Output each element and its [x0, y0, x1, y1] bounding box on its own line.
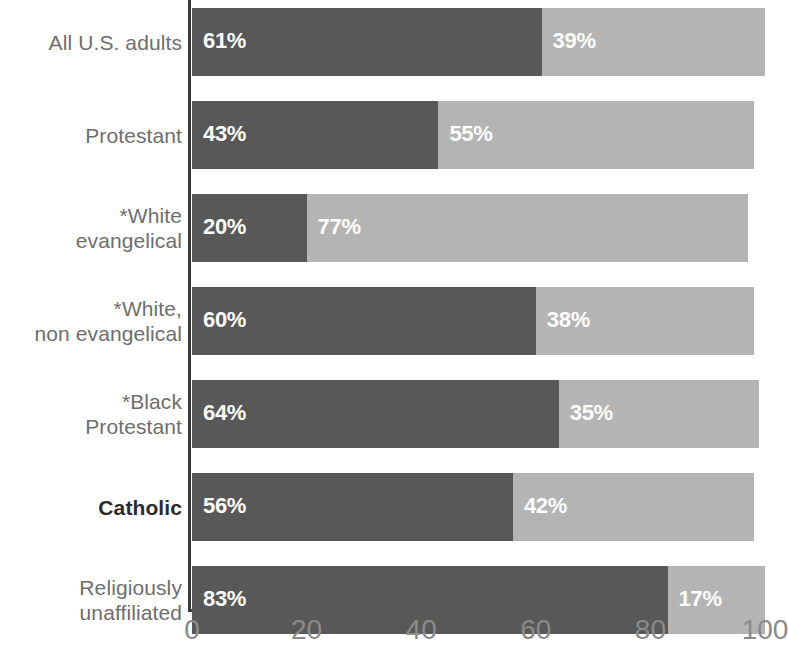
- bar-segment-second: 55%: [438, 101, 753, 169]
- bar-segment-second: 35%: [559, 380, 760, 448]
- x-tick-5: 100: [742, 614, 788, 646]
- x-tick-3: 60: [520, 614, 551, 646]
- bar-segment-first: 61%: [192, 8, 542, 76]
- x-tick-1: 20: [291, 614, 322, 646]
- bar-value-label-second: 35%: [570, 400, 613, 426]
- bar-value-label-first: 56%: [203, 493, 246, 519]
- category-label-2: *White evangelical: [0, 203, 182, 253]
- bar-value-label-second: 17%: [679, 586, 722, 612]
- x-tick-0: 0: [184, 614, 200, 646]
- bar-value-label-first: 20%: [203, 214, 246, 240]
- category-axis-labels: All U.S. adults Protestant *White evange…: [0, 0, 182, 612]
- y-axis-line: [188, 0, 191, 612]
- category-label-6: Religiously unaffiliated: [0, 575, 182, 625]
- bar-value-label-first: 64%: [203, 400, 246, 426]
- bar-segment-second: 38%: [536, 287, 754, 355]
- bar-segment-first: 43%: [192, 101, 438, 169]
- bar-segment-first: 56%: [192, 473, 513, 541]
- bar-segment-first: 20%: [192, 194, 307, 262]
- bar-value-label-first: 43%: [203, 121, 246, 147]
- x-tick-2: 40: [406, 614, 437, 646]
- category-label-5: Catholic: [0, 495, 182, 520]
- bar-value-label-second: 42%: [524, 493, 567, 519]
- bar-value-label-first: 83%: [203, 586, 246, 612]
- x-tick-4: 80: [635, 614, 666, 646]
- category-label-4: *Black Protestant: [0, 389, 182, 439]
- bar-value-label-first: 61%: [203, 28, 246, 54]
- bar-value-label-second: 39%: [553, 28, 596, 54]
- bar-segment-first: 60%: [192, 287, 536, 355]
- plot-area: 61% 39% 43% 55% 20% 77% 60%: [192, 0, 765, 612]
- x-axis-tick-labels: 0 20 40 60 80 100: [192, 614, 765, 658]
- bar-value-label-first: 60%: [203, 307, 246, 333]
- category-label-1: Protestant: [0, 123, 182, 148]
- bar-segment-second: 39%: [542, 8, 765, 76]
- bar-value-label-second: 77%: [318, 214, 361, 240]
- bar-value-label-second: 38%: [547, 307, 590, 333]
- category-label-3: *White, non evangelical: [0, 296, 182, 346]
- category-label-0: All U.S. adults: [0, 30, 182, 55]
- bar-value-label-second: 55%: [449, 121, 492, 147]
- bar-segment-second: 77%: [307, 194, 748, 262]
- bar-segment-first: 64%: [192, 380, 559, 448]
- bar-segment-second: 42%: [513, 473, 754, 541]
